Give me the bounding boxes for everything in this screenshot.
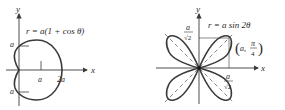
point-paren-close: )	[258, 40, 263, 57]
left-label-a-bottom: a	[10, 87, 14, 96]
right-equation: r = a sin 2θ	[208, 20, 251, 30]
origin-point	[197, 66, 201, 70]
point-pi: π	[251, 39, 256, 48]
left-y-label: y	[15, 4, 20, 14]
point-a: a,	[240, 44, 246, 53]
right-x-label: x	[260, 63, 265, 73]
left-label-2a: 2a	[57, 75, 65, 84]
cardioid-plot: y x r = a(1 + cos θ) a 2a a a	[6, 4, 95, 106]
frac-bottom-num: a	[226, 72, 230, 81]
left-label-a: a	[38, 75, 42, 84]
rose-plot: y x r = a sin 2θ a √2 a √2 ( a, π 4 )	[156, 4, 265, 104]
left-label-a-top: a	[10, 40, 14, 49]
frac-bottom-den: √2	[224, 83, 232, 91]
frac-top-den: √2	[184, 34, 192, 42]
right-y-label: y	[195, 4, 200, 14]
polar-curves-figure: y x r = a(1 + cos θ) a 2a a a y x r = a …	[0, 0, 285, 110]
left-x-label: x	[90, 65, 95, 75]
left-equation: r = a(1 + cos θ)	[26, 26, 84, 36]
point-four: 4	[251, 50, 255, 58]
frac-top-num: a	[186, 23, 190, 32]
